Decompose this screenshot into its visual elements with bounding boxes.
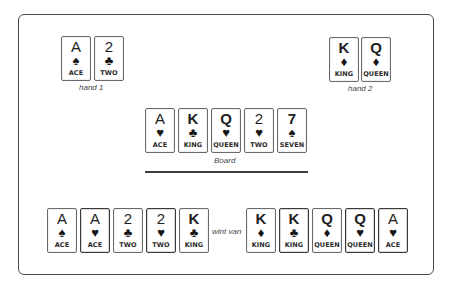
heart-icon: ♥: [245, 126, 273, 139]
winner-card-5[interactable]: K ♣ KING: [179, 208, 209, 253]
card-name: QUEEN: [313, 242, 341, 249]
card-rank: K: [179, 111, 207, 126]
card-name: QUEEN: [346, 242, 374, 249]
card-rank: 2: [95, 39, 123, 54]
club-icon: ♣: [114, 226, 142, 239]
card-name: KING: [330, 71, 358, 78]
heart-icon: ♥: [379, 226, 407, 239]
board-card-4[interactable]: 2 ♥ TWO: [244, 108, 274, 153]
card-rank: Q: [212, 111, 240, 126]
diamond-icon: ♦: [330, 55, 358, 68]
card-name: QUEEN: [362, 71, 390, 78]
card-rank: A: [379, 211, 407, 226]
card-name: TWO: [95, 70, 123, 77]
card-rank: K: [330, 40, 358, 55]
card-name: TWO: [245, 142, 273, 149]
card-rank: A: [48, 211, 76, 226]
card-rank: K: [247, 211, 275, 226]
card-rank: Q: [346, 211, 374, 226]
hand2-label: hand 2: [348, 84, 372, 93]
diamond-icon: ♦: [362, 55, 390, 68]
heart-icon: ♥: [346, 226, 374, 239]
heart-icon: ♥: [212, 126, 240, 139]
card-name: TWO: [114, 242, 142, 249]
card-rank: 7: [278, 111, 306, 126]
card-rank: K: [180, 211, 208, 226]
card-name: ACE: [62, 70, 90, 77]
loser-card-2[interactable]: K ♣ KING: [279, 208, 309, 253]
diamond-icon: ♦: [313, 226, 341, 239]
card-rank: 2: [245, 111, 273, 126]
heart-icon: ♥: [146, 126, 174, 139]
card-rank: K: [280, 211, 308, 226]
hand1-card-1[interactable]: A ♠ ACE: [61, 36, 91, 81]
diamond-icon: ♦: [247, 226, 275, 239]
card-name: ACE: [81, 242, 109, 249]
spade-icon: ♠: [48, 226, 76, 239]
club-icon: ♣: [280, 226, 308, 239]
board-card-3[interactable]: Q ♥ QUEEN: [211, 108, 241, 153]
wint-van-label: wint van: [212, 227, 241, 236]
card-name: ACE: [379, 242, 407, 249]
card-rank: 2: [114, 211, 142, 226]
card-rank: A: [146, 111, 174, 126]
spade-icon: ♠: [62, 54, 90, 67]
card-rank: Q: [362, 40, 390, 55]
board-label: Board: [214, 156, 235, 165]
card-name: SEVEN: [278, 142, 306, 149]
board-card-2[interactable]: K ♣ KING: [178, 108, 208, 153]
winner-card-2[interactable]: A ♥ ACE: [80, 208, 110, 253]
card-name: ACE: [48, 242, 76, 249]
hand1-label: hand 1: [79, 83, 103, 92]
board-card-1[interactable]: A ♥ ACE: [145, 108, 175, 153]
club-icon: ♣: [180, 226, 208, 239]
hand1-card-2[interactable]: 2 ♣ TWO: [94, 36, 124, 81]
card-rank: Q: [313, 211, 341, 226]
winner-card-4[interactable]: 2 ♥ TWO: [146, 208, 176, 253]
heart-icon: ♥: [147, 226, 175, 239]
card-name: KING: [280, 242, 308, 249]
club-icon: ♣: [179, 126, 207, 139]
card-name: ACE: [146, 142, 174, 149]
hand2-card-2[interactable]: Q ♦ QUEEN: [361, 37, 391, 82]
loser-card-1[interactable]: K ♦ KING: [246, 208, 276, 253]
spade-icon: ♠: [278, 126, 306, 139]
card-name: KING: [247, 242, 275, 249]
loser-card-3[interactable]: Q ♦ QUEEN: [312, 208, 342, 253]
card-name: KING: [180, 242, 208, 249]
winner-card-3[interactable]: 2 ♣ TWO: [113, 208, 143, 253]
card-rank: 2: [147, 211, 175, 226]
card-name: KING: [179, 142, 207, 149]
card-name: TWO: [147, 242, 175, 249]
board-divider: [145, 171, 308, 173]
heart-icon: ♥: [81, 226, 109, 239]
loser-card-4[interactable]: Q ♥ QUEEN: [345, 208, 375, 253]
card-rank: A: [81, 211, 109, 226]
hand2-card-1[interactable]: K ♦ KING: [329, 37, 359, 82]
card-name: QUEEN: [212, 142, 240, 149]
card-rank: A: [62, 39, 90, 54]
club-icon: ♣: [95, 54, 123, 67]
board-card-5[interactable]: 7 ♠ SEVEN: [277, 108, 307, 153]
winner-card-1[interactable]: A ♠ ACE: [47, 208, 77, 253]
loser-card-5[interactable]: A ♥ ACE: [378, 208, 408, 253]
